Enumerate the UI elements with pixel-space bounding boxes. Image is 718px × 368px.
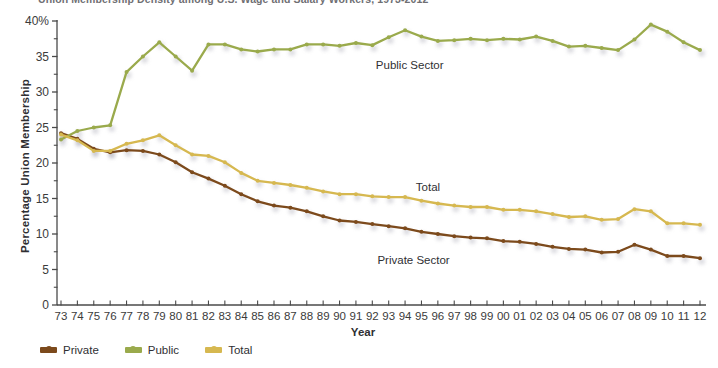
legend-swatch-icon xyxy=(125,347,142,353)
y-tick-label: 35 xyxy=(5,51,49,63)
annotation-public-sector: Public Sector xyxy=(376,59,444,71)
y-tick-label: 25 xyxy=(5,122,49,134)
y-tick-label: 20 xyxy=(5,157,49,169)
annotation-private-sector: Private Sector xyxy=(377,254,449,266)
legend-item-public[interactable]: Public xyxy=(125,344,179,356)
y-tick-label: 10 xyxy=(5,228,49,240)
y-tick-label: 40% xyxy=(5,15,49,27)
legend-swatch-icon xyxy=(40,347,57,353)
y-tick-label: 5 xyxy=(5,264,49,276)
legend-label: Private xyxy=(63,344,99,356)
y-tick-label: 30 xyxy=(5,86,49,98)
legend-swatch-icon xyxy=(205,347,222,353)
legend-label: Public xyxy=(148,344,179,356)
x-tick-label: 12 xyxy=(689,310,711,322)
chart-container: Union Membership Density among U.S. Wage… xyxy=(0,0,718,368)
legend-item-private[interactable]: Private xyxy=(40,344,99,356)
y-tick-label: 0 xyxy=(5,299,49,311)
annotation-total: Total xyxy=(416,181,440,193)
legend-item-total[interactable]: Total xyxy=(205,344,252,356)
y-tick-label: 15 xyxy=(5,193,49,205)
legend-label: Total xyxy=(228,344,252,356)
chart-legend: PrivatePublicTotal xyxy=(40,341,252,359)
